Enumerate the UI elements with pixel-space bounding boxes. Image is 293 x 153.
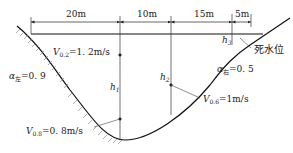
dead-water-level-label: 死水位 <box>254 45 284 55</box>
coefficient-left: α左=0. 9 <box>9 72 46 82</box>
coefficient-right: α右=0. 5 <box>217 65 254 75</box>
depth-label-h1: h1 <box>110 83 120 93</box>
velocity-label-v02: V0.2=1. 2m/s <box>53 48 110 58</box>
dimension-label-10m: 10m <box>137 10 157 19</box>
measurement-verticals <box>120 14 232 140</box>
velocity-label-v06: V0.6=1m/s <box>203 95 249 105</box>
depth-label-h3: h3 <box>222 36 232 46</box>
velocity-label-v08: V0.8=0. 8m/s <box>26 127 83 137</box>
dimension-label-5m: 5m <box>235 10 249 19</box>
dimension-label-20m: 20m <box>66 10 86 19</box>
river-bed-curve <box>17 18 290 140</box>
depth-label-h2: h2 <box>160 73 170 83</box>
dimension-label-15m: 15m <box>194 10 214 19</box>
